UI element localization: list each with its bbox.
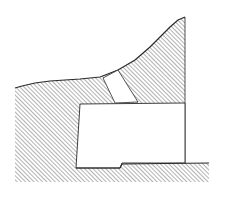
chamber	[76, 103, 185, 168]
cross-section-diagram	[0, 0, 226, 199]
